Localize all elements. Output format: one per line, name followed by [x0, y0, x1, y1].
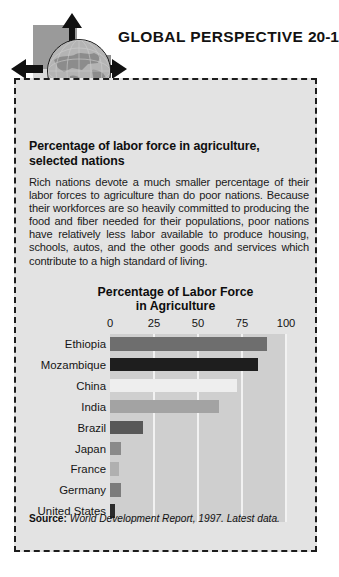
bar-label-japan: Japan: [75, 443, 106, 455]
box-body-text: Rich nations devote a much smaller perce…: [29, 176, 309, 268]
bar-row: France: [16, 460, 319, 481]
bar-label-china: China: [76, 380, 106, 392]
chart-title-line1: Percentage of Labor Force: [38, 285, 313, 299]
x-tick-0: 0: [107, 317, 113, 329]
bar-label-ethiopia: Ethiopia: [65, 338, 106, 350]
bar-label-germany: Germany: [59, 484, 106, 496]
bar-mozambique: [110, 358, 258, 372]
bar-france: [110, 462, 119, 476]
bar-row: Ethiopia: [16, 335, 319, 356]
bar-row: India: [16, 398, 319, 419]
bar-label-france: France: [71, 463, 106, 475]
bar-row: Brazil: [16, 419, 319, 440]
source-citation: World Development Report, 1997. Latest d…: [70, 513, 280, 524]
panel-content: Percentage of labor force in agriculture…: [16, 80, 315, 550]
bar-india: [110, 400, 219, 414]
page-title: GLOBAL PERSPECTIVE 20-1: [118, 28, 339, 46]
bar-row: Japan: [16, 440, 319, 461]
bar-ethiopia: [110, 337, 267, 351]
bar-row: China: [16, 377, 319, 398]
bar-chart: Percentage of Labor Force in Agriculture…: [16, 285, 319, 522]
bar-label-india: India: [81, 401, 106, 413]
bar-brazil: [110, 421, 143, 435]
global-perspective-panel: Percentage of labor force in agriculture…: [14, 78, 317, 552]
box-title: Percentage of labor force in agriculture…: [29, 139, 307, 169]
source-label: Source:: [29, 513, 67, 524]
bar-row: Mozambique: [16, 356, 319, 377]
bar-row: Germany: [16, 481, 319, 502]
bar-japan: [110, 442, 121, 456]
bar-label-brazil: Brazil: [78, 422, 106, 434]
page-title-number: 20-1: [308, 28, 339, 45]
source-note: Source: World Development Report, 1997. …: [29, 513, 280, 524]
x-tick-50: 50: [192, 317, 204, 329]
bar-china: [110, 379, 237, 393]
x-tick-25: 25: [148, 317, 160, 329]
plot-area: EthiopiaMozambiqueChinaIndiaBrazilJapanF…: [16, 334, 319, 522]
bar-label-mozambique: Mozambique: [41, 359, 106, 371]
arrow-left-icon: [11, 58, 43, 80]
chart-title: Percentage of Labor Force in Agriculture: [16, 285, 319, 313]
x-tick-75: 75: [236, 317, 248, 329]
x-axis-ticks: 0255075100: [16, 317, 319, 333]
x-tick-100: 100: [277, 317, 296, 329]
chart-title-line2: in Agriculture: [38, 299, 313, 313]
page-title-text: GLOBAL PERSPECTIVE: [118, 28, 303, 45]
bar-germany: [110, 483, 121, 497]
